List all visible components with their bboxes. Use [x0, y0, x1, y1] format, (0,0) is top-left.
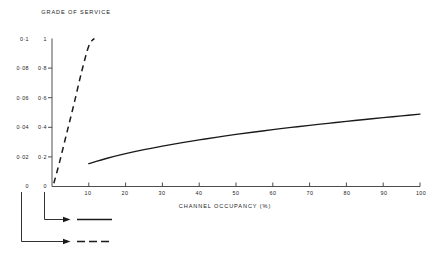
solid-curve	[89, 114, 420, 163]
chart-figure: GRADE OF SERVICE CHANNEL OCCUPANCY (%) 0…	[0, 0, 445, 257]
arrowhead-icon	[63, 217, 71, 222]
y-axis-ticks	[48, 68, 52, 157]
legend-leader-solid	[45, 192, 71, 222]
dashed-curve	[54, 39, 94, 184]
arrowhead-icon	[63, 239, 71, 244]
x-axis-ticks	[89, 183, 420, 187]
chart-canvas	[0, 0, 445, 257]
